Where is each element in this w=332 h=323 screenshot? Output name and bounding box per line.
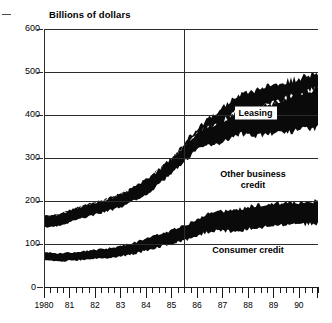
y-tick-100 [37,244,43,245]
y-tick-300 [37,158,43,159]
x-axis-label-82: 82 [90,300,99,310]
x-tick-minor [184,287,185,293]
x-tick-minor [178,287,179,293]
chart-root: Billions of dollars 100200300400500600 0… [0,0,332,323]
x-tick-major-1985 [171,287,172,298]
y-tick-500 [37,72,43,73]
gridline-400 [44,115,318,116]
y-tick-600 [37,29,43,30]
x-tick-minor [50,287,51,293]
gridline-200 [44,201,318,202]
series-label-other-business-line2: credit [220,180,286,191]
x-axis-label-87: 87 [218,300,227,310]
x-tick-major-1980 [44,287,45,298]
x-tick-major-1981 [69,287,70,298]
x-tick-minor [140,287,141,293]
x-tick-minor [89,287,90,293]
x-tick-minor [216,287,217,293]
x-tick-minor [286,287,287,293]
x-axis-label-81: 81 [65,300,74,310]
x-tick-major-1990 [299,287,300,298]
x-tick-minor [261,287,262,293]
x-axis-label-90: 90 [294,300,303,310]
x-tick-minor [210,287,211,293]
gridline-300 [44,158,318,159]
x-tick-minor [101,287,102,293]
y-tick-400 [37,115,43,116]
series-label-other-business-credit: Other business credit [220,169,286,191]
chart-title: Billions of dollars [49,9,131,20]
x-tick-minor [242,287,243,293]
x-tick-end [317,287,318,298]
x-tick-major-1987 [222,287,223,298]
x-tick-minor [165,287,166,293]
x-axis-label-84: 84 [141,300,150,310]
x-tick-minor [57,287,58,293]
x-tick-minor [318,287,319,293]
x-axis-label-88: 88 [243,300,252,310]
x-axis-labels: 198081828384858687888990 [44,300,318,312]
x-axis-baseline [44,287,318,288]
x-tick-minor [235,287,236,293]
x-axis: 198081828384858687888990 [44,287,318,311]
y-tick-200 [37,201,43,202]
x-tick-minor [293,287,294,293]
x-tick-minor [108,287,109,293]
x-tick-major-1984 [146,287,147,298]
x-tick-minor [114,287,115,293]
x-axis-label-85: 85 [167,300,176,310]
x-tick-major-1988 [248,287,249,298]
x-tick-minor [159,287,160,293]
x-axis-label-86: 86 [192,300,201,310]
x-axis-label-83: 83 [116,300,125,310]
reference-line-1980 [44,29,45,287]
x-tick-minor [82,287,83,293]
series-label-consumer-credit: Consumer credit [212,245,284,256]
x-tick-minor [254,287,255,293]
series-label-leasing: Leasing [235,106,277,119]
x-tick-major-1989 [273,287,274,298]
edge-artifact-dash [2,14,11,15]
x-tick-minor [191,287,192,293]
x-tick-minor [133,287,134,293]
x-tick-minor [305,287,306,293]
x-tick-minor [229,287,230,293]
x-tick-minor [267,287,268,293]
x-tick-major-1986 [197,287,198,298]
x-tick-minor [63,287,64,293]
x-axis-label-89: 89 [269,300,278,310]
x-tick-minor [280,287,281,293]
gridline-500 [44,72,318,73]
reference-line-1985-5 [184,29,185,287]
gridline-600 [44,29,318,30]
x-tick-minor [127,287,128,293]
x-axis-label-1980: 1980 [35,300,54,310]
x-tick-minor [76,287,77,293]
y-axis-zero-label: 0 [31,282,36,292]
band-leasing [44,72,318,216]
x-tick-major-1983 [120,287,121,298]
x-tick-minor [203,287,204,293]
series-label-other-business-line1: Other business [220,169,286,180]
x-tick-major-1982 [95,287,96,298]
x-tick-minor [152,287,153,293]
y-tick-0 [37,287,43,288]
x-tick-minor [312,287,313,293]
